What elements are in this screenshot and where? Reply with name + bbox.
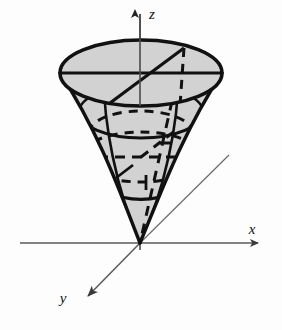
- y-axis-line: [88, 243, 140, 296]
- figure-canvas: z x y: [0, 0, 282, 330]
- y-axis-label: y: [58, 290, 67, 306]
- z-axis-label: z: [148, 6, 155, 22]
- top-disk-group: [60, 14, 222, 106]
- math-figure: z x y: [0, 0, 282, 330]
- x-axis-label: x: [248, 221, 256, 237]
